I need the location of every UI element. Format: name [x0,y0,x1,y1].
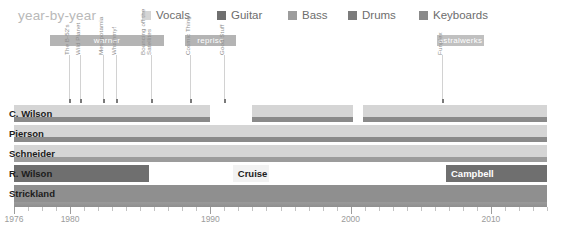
member-name: Pierson [9,129,44,139]
axis-tick [210,207,211,214]
x-axis: 19761980199020002010 [0,202,561,233]
album-dot-icon [69,99,71,103]
axis-tick [463,207,464,211]
axis-tick [98,207,99,211]
span-keyboards[interactable] [363,117,547,122]
axis-tick-label: 1976 [5,214,24,224]
axis-tick [196,207,197,211]
plot-area: C. WilsonPiersonSchneiderCruiseCampbellR… [0,104,561,202]
axis-tick [266,207,267,211]
axis-tick [154,207,155,211]
axis-tick [351,207,352,214]
axis-tick [14,207,15,214]
era-label: astralwerks [439,37,483,45]
legend-item-keyboards: Keyboards [419,9,488,21]
axis-tick [84,207,85,211]
axis-tick [182,207,183,211]
era-bar-astralwerks: astralwerks [437,35,484,46]
album-stem [80,55,81,99]
legend-label: Bass [302,9,328,21]
span-label: Cruise [238,169,268,179]
span-keyboards[interactable] [252,117,353,122]
legend-item-bass: Bass [288,9,328,21]
album-dot-icon [80,99,82,103]
axis-tick [28,207,29,211]
album-dot-icon [442,99,444,103]
axis-tick [435,207,436,211]
axis-tick [365,207,366,211]
member-row-r-wilson[interactable]: CruiseCampbellR. Wilson [0,165,561,182]
member-name: R. Wilson [9,169,52,179]
album-dot-icon [190,99,192,103]
member-row-c-wilson[interactable]: C. Wilson [0,105,561,122]
axis-tick [42,207,43,211]
page-title: year-by-year [18,8,96,23]
album-label: Mesopotamia [98,11,105,55]
axis-tick [126,207,127,211]
axis-tick [421,207,422,211]
album-label: Wild Planet [75,11,82,55]
axis-tick [56,207,57,211]
album-stem [442,55,443,99]
axis-tick-label: 2010 [481,214,500,224]
album-stem [190,55,191,99]
span-label: Campbell [451,169,494,179]
axis-tick-label: 1980 [61,214,80,224]
album-label: The B-52's [64,11,71,55]
album-stem [103,55,104,99]
axis-tick [393,207,394,211]
axis-tick [323,207,324,211]
album-label: Funplex [437,11,444,55]
album-label: Bouncing off the Satellites [140,11,153,55]
axis-tick [252,207,253,211]
member-row-schneider[interactable]: Schneider [0,145,561,162]
legend-swatch-icon [419,11,428,20]
album-dot-icon [103,99,105,103]
span-drums[interactable] [14,185,547,202]
album-dot-icon [151,99,153,103]
axis-tick [533,207,534,211]
span-vocals[interactable] [363,105,547,117]
year-by-year-timeline-chart: year-by-year VocalsGuitarBassDrumsKeyboa… [0,0,561,233]
member-row-pierson[interactable]: Pierson [0,125,561,142]
album-stem [151,55,152,99]
album-stem [69,55,70,99]
axis-tick [379,207,380,211]
axis-tick [112,207,113,211]
era-bar-reprise: reprise [185,35,236,46]
member-name: Schneider [9,149,55,159]
span-vocals[interactable] [14,125,547,137]
axis-tick [337,207,338,211]
axis-tick [70,207,71,214]
axis-tick [309,207,310,211]
axis-tick [519,207,520,211]
chart-header: year-by-year VocalsGuitarBassDrumsKeyboa… [0,8,561,28]
album-label: Good Stuff [219,11,226,55]
album-stem [116,55,117,99]
axis-tick-label: 1990 [201,214,220,224]
span-vocals[interactable] [14,145,547,157]
axis-tick [449,207,450,211]
span-keyboards[interactable] [14,137,547,142]
legend-swatch-icon [288,11,297,20]
album-label: Whammy! [111,11,118,55]
legend-item-drums: Drums [348,9,396,21]
member-row-strickland[interactable]: Strickland [0,185,561,202]
axis-tick [281,207,282,211]
legend-label: Guitar [231,9,262,21]
axis-tick [224,207,225,211]
axis-tick [238,207,239,211]
legend-swatch-icon [348,11,357,20]
album-label: Cosmic Thing [185,11,192,55]
album-dot-icon [116,99,118,103]
axis-tick [295,207,296,211]
axis-tick [491,207,492,214]
member-name: C. Wilson [9,109,52,119]
axis-tick [140,207,141,211]
span-bass[interactable] [14,157,547,162]
span-vocals[interactable] [252,105,353,117]
member-name: Strickland [9,189,55,199]
legend-label: Drums [362,9,396,21]
axis-tick [477,207,478,211]
axis-tick-label: 2000 [341,214,360,224]
